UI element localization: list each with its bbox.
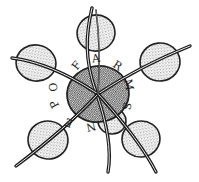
radial-node-diagram: FARMSNEPO <box>0 0 199 182</box>
label-m: M <box>121 78 136 92</box>
diagram-canvas-container: FARMSNEPO FARMS OPEN radial node sketch … <box>0 0 199 182</box>
label-o: O <box>47 82 61 92</box>
node-upper-right <box>138 41 182 83</box>
label-p: P <box>47 97 62 110</box>
label-n: N <box>85 119 97 134</box>
node-top <box>74 11 119 54</box>
label-a: A <box>90 51 102 65</box>
